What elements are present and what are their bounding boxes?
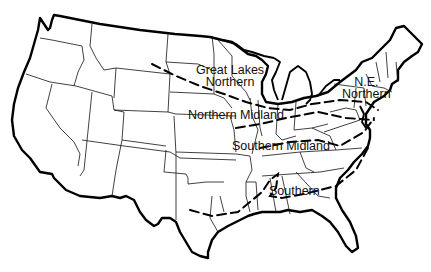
dialect-map: Great Lakes Northern N.E. Northern North… [0,0,431,272]
region-label-line: Southern [269,185,320,197]
region-label-line: Northern [342,88,391,100]
label-southern: Southern [269,185,320,197]
label-northern-midland: Northern Midland [188,109,284,121]
label-great-lakes-northern: Great Lakes Northern [196,64,264,88]
region-label-line: Southern Midland [232,140,330,152]
us-map-graphic [0,0,431,272]
label-southern-midland: Southern Midland [232,140,330,152]
label-ne-northern: N.E. Northern [342,76,391,100]
region-label-line: Northern [196,76,264,88]
state-boundaries [26,24,398,232]
us-outline [12,15,422,258]
region-label-line: Northern Midland [188,109,284,121]
